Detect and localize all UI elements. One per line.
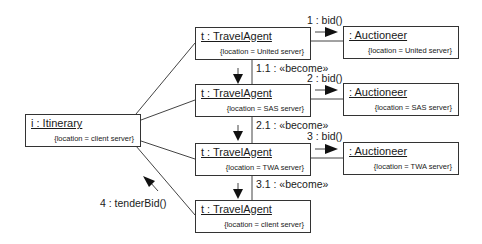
object-auctioneer-united[interactable]: : Auctioneer {location = United server}	[343, 26, 459, 59]
arrow-down-icon	[233, 189, 243, 199]
object-name: t : TravelAgent	[201, 87, 272, 99]
object-travelagent-client[interactable]: t : TravelAgent {location = client serve…	[195, 200, 311, 233]
arrow-right-icon	[325, 144, 338, 154]
object-travelagent-twa[interactable]: t : TravelAgent {location = TWA server}	[195, 143, 311, 176]
object-location: {location = TWA server}	[226, 163, 304, 172]
arrow-right-icon	[325, 85, 338, 95]
object-location: {location = SAS server}	[227, 104, 304, 113]
arrow-down-icon	[233, 131, 243, 141]
object-auctioneer-sas[interactable]: : Auctioneer {location = SAS server}	[343, 83, 459, 116]
arrow-down-icon	[233, 74, 243, 84]
arrow-right-icon	[325, 27, 338, 37]
object-location: {location = TWA server}	[374, 162, 452, 171]
object-name: : Auctioneer	[349, 29, 407, 41]
object-name: i : Itinerary	[31, 117, 82, 129]
message-label-become-3-1: 3.1 : «become»	[256, 178, 328, 190]
object-location: {location = SAS server}	[375, 103, 452, 112]
object-travelagent-sas[interactable]: t : TravelAgent {location = SAS server}	[195, 84, 311, 117]
object-location: {location = United server}	[220, 47, 304, 56]
message-label-tenderbid-4: 4 : tenderBid()	[100, 197, 167, 209]
message-label-bid-2: 2 : bid()	[307, 72, 343, 84]
object-name: t : TravelAgent	[201, 146, 272, 158]
message-label-bid-1: 1 : bid()	[307, 14, 343, 26]
object-auctioneer-twa[interactable]: : Auctioneer {location = TWA server}	[343, 142, 459, 175]
object-name: t : TravelAgent	[201, 203, 272, 215]
object-location: {location = client server}	[54, 134, 134, 143]
object-travelagent-united[interactable]: t : TravelAgent {location = United serve…	[195, 27, 311, 60]
object-name: : Auctioneer	[349, 86, 407, 98]
object-name: t : TravelAgent	[201, 30, 272, 42]
object-location: {location = United server}	[368, 46, 452, 55]
message-label-bid-3: 3 : bid()	[307, 130, 343, 142]
object-itinerary[interactable]: i : Itinerary {location = client server}	[25, 114, 141, 147]
object-location: {location = client server}	[224, 220, 304, 229]
object-name: : Auctioneer	[349, 145, 407, 157]
